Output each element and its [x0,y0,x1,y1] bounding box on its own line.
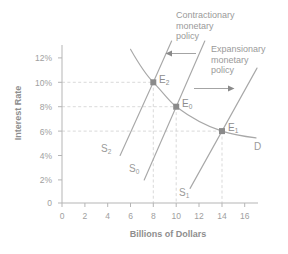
curve-label-S1: S1 [179,187,189,199]
equilibrium-label-E1-subscript: 1 [235,127,239,134]
equilibrium-label-E0-subscript: 0 [189,103,193,110]
equilibrium-label-E1: E1 [228,122,238,134]
annotation-contractionary-line3: policy [176,31,235,42]
y-tick-label-6: 6% [22,127,52,137]
x-tick-label-16: 16 [235,211,255,221]
x-tick-label-8: 8 [143,211,163,221]
curve-label-D: D [254,141,261,153]
y-tick-label-8: 8% [22,102,52,112]
curve-label-S2-subscript: 2 [108,148,112,155]
y-tick-label-0: 0 [22,198,52,208]
interest-rate-money-market-chart: 12% 10% 8% 6% 4% 2% 0 0 2 4 6 8 10 12 14… [0,0,288,254]
x-tick-label-12: 12 [189,211,209,221]
curve-label-S2-letter: S [101,143,108,154]
equilibrium-label-E2-letter: E [159,74,166,85]
curve-label-S0: S0 [129,163,139,175]
marker-E2 [150,79,156,85]
x-tick-label-4: 4 [98,211,118,221]
annotation-contractionary-line2: monetary [176,21,235,32]
y-axis-ticks [58,58,62,203]
annotation-expansionary-line2: monetary [211,55,266,66]
y-tick-label-4: 4% [22,151,52,161]
equilibrium-label-E1-letter: E [228,122,235,133]
curve-label-S1-letter: S [179,187,186,198]
grid-guides [62,82,222,203]
equilibrium-label-E0: E0 [182,98,192,110]
x-tick-label-2: 2 [75,211,95,221]
annotation-expansionary: Expansionary monetary policy [211,44,266,76]
x-axis-ticks [62,203,245,207]
y-axis-title: Interest Rate [13,86,23,141]
equilibrium-label-E2: E2 [159,74,169,86]
y-axis-title-wrapper: Interest Rate [7,73,25,153]
x-tick-label-14: 14 [212,211,232,221]
annotation-expansionary-line1: Expansionary [211,44,266,55]
y-tick-label-12: 12% [22,53,52,63]
x-tick-label-6: 6 [121,211,141,221]
x-axis-title: Billions of Dollars [88,229,248,240]
equilibrium-label-E0-letter: E [182,98,189,109]
x-tick-label-0: 0 [52,211,72,221]
equilibrium-label-E2-subscript: 2 [166,79,170,86]
supply-curve-S2 [120,41,172,156]
x-tick-label-10: 10 [166,211,186,221]
annotation-contractionary: Contractionary monetary policy [176,10,235,42]
curve-label-S1-subscript: 1 [186,192,190,199]
y-tick-label-10: 10% [22,78,52,88]
curve-label-S0-subscript: 0 [136,168,140,175]
expansionary-arrow-head-icon [228,86,235,92]
marker-E0 [173,104,179,110]
marker-E1 [219,128,225,134]
curve-label-S2: S2 [101,143,111,155]
curve-label-S0-letter: S [129,163,136,174]
annotation-contractionary-line1: Contractionary [176,10,235,21]
y-tick-label-2: 2% [22,175,52,185]
annotation-expansionary-line3: policy [211,65,266,76]
